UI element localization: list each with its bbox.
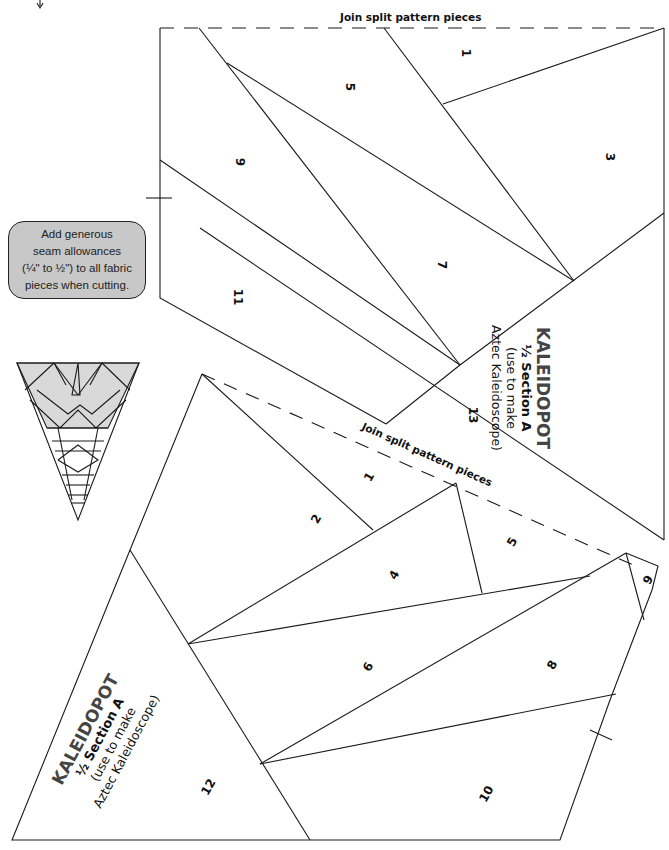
title-kaleidopot: KALEIDOPOT	[534, 288, 552, 488]
title-section: ½ Section A	[519, 288, 534, 488]
note-line: seam allowances	[33, 243, 121, 260]
title-aztec: Aztec Kaleidoscope)	[489, 288, 504, 488]
note-line: Add generous	[41, 226, 113, 243]
upper-piece-number-1: 1	[459, 49, 473, 57]
block-thumbnail	[17, 363, 139, 520]
upper-piece-number-9: 9	[233, 158, 247, 166]
page-marker-icon	[37, 0, 43, 8]
note-line: pieces when cutting.	[25, 277, 129, 294]
upper-piece-number-13: 13	[466, 407, 480, 424]
note-line: (¼" to ½") to all fabric	[22, 260, 132, 277]
upper-join-label: Join split pattern pieces	[340, 11, 481, 23]
seam-allowance-note: Add generous seam allowances (¼" to ½") …	[8, 221, 146, 299]
upper-piece-number-5: 5	[343, 83, 357, 91]
upper-piece-number-3: 3	[603, 153, 617, 161]
upper-piece-number-11: 11	[231, 289, 245, 306]
upper-title-block: KALEIDOPOT ½ Section A (use to make Azte…	[489, 288, 552, 488]
pattern-page: Add generous seam allowances (¼" to ½") …	[0, 0, 669, 850]
title-use-to-make: (use to make	[504, 288, 519, 488]
upper-pattern-piece	[146, 28, 664, 540]
upper-piece-number-7: 7	[435, 261, 449, 269]
